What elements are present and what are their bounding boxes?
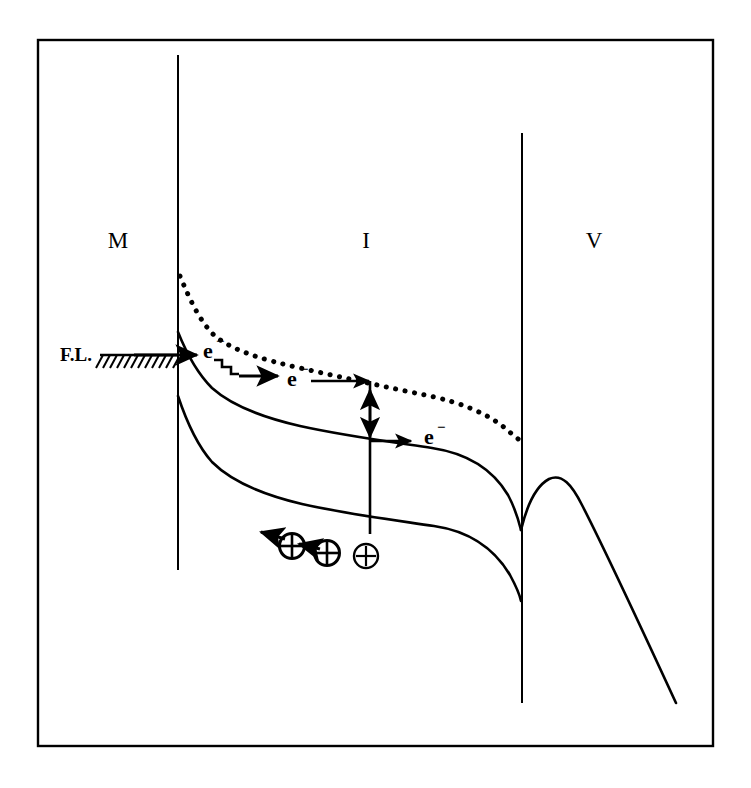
hole-middle (315, 541, 340, 566)
fermi-level-label: F.L. (60, 344, 92, 365)
band-valence-solid (178, 396, 521, 601)
figure-frame (38, 40, 713, 746)
carrier-electron-injected: e − (203, 333, 225, 363)
hole-left (280, 534, 305, 559)
carrier-electron-emitted-symbol: e (424, 424, 434, 449)
region-label-vacuum: V (586, 228, 603, 253)
trap-hopping-staircase (214, 360, 239, 374)
band-conduction-solid (178, 332, 521, 530)
hole-right (354, 544, 378, 568)
band-diagram-svg: M I V F.L. (0, 0, 751, 788)
region-label-insulator: I (362, 228, 370, 253)
band-conduction-dotted (180, 276, 521, 441)
carrier-electron-hopping: e − (287, 361, 309, 391)
fermi-level-hatching (96, 355, 179, 368)
carrier-electron-emitted-superscript: − (437, 419, 446, 435)
carrier-electron-injected-symbol: e (203, 338, 213, 363)
vacuum-barrier-curve (521, 477, 676, 703)
region-label-metal: M (108, 228, 128, 253)
figure-root: M I V F.L. (0, 0, 751, 788)
carrier-electron-emitted: e − (424, 419, 446, 449)
carrier-electron-hopping-symbol: e (287, 366, 297, 391)
carrier-electron-injected-superscript: − (216, 333, 225, 349)
carrier-electron-hopping-superscript: − (300, 361, 309, 377)
